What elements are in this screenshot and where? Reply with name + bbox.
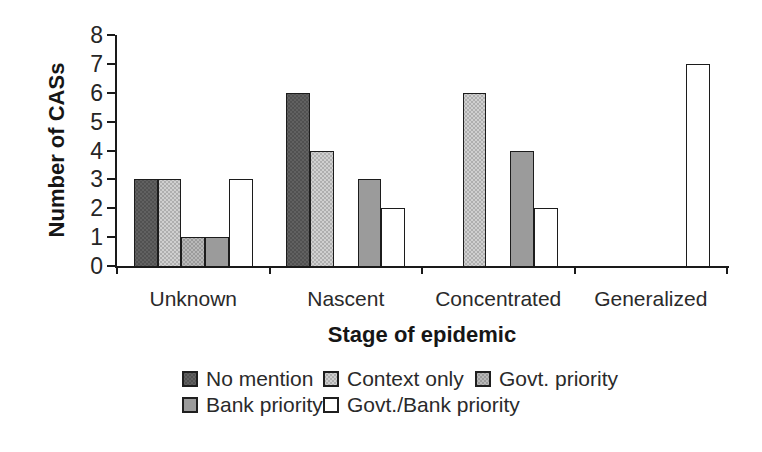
legend-label: Bank priority — [206, 393, 323, 417]
legend-swatch-icon — [323, 371, 339, 387]
bar-unknown-govt-priority — [181, 237, 205, 268]
legend-row: No mentionContext onlyGovt. priority — [182, 366, 618, 392]
x-category-label-concentrated: Concentrated — [422, 287, 575, 311]
bar-nascent-no-mention — [286, 93, 310, 268]
bar-generalized-govt-bank-priority — [686, 64, 710, 268]
bar-nascent-bank-priority — [358, 179, 382, 268]
y-tick-label: 8 — [69, 22, 103, 48]
legend: No mentionContext onlyGovt. priorityBank… — [182, 366, 618, 418]
y-tick-label: 3 — [69, 166, 103, 192]
y-axis-tick — [107, 121, 115, 123]
legend-item-govt-bank-priority: Govt./Bank priority — [323, 393, 520, 417]
y-axis-tick — [107, 265, 115, 267]
bar-nascent-context-only — [310, 151, 334, 269]
legend-swatch-icon — [475, 371, 491, 387]
y-axis-tick — [107, 34, 115, 36]
x-axis-tick — [269, 266, 271, 274]
x-axis-tick — [421, 266, 423, 274]
legend-item-no-mention: No mention — [182, 367, 323, 391]
bar-unknown-no-mention — [134, 179, 158, 268]
bar-concentrated-bank-priority — [510, 151, 534, 269]
legend-swatch-icon — [182, 397, 198, 413]
y-axis-title: Number of CASs — [44, 63, 70, 238]
y-axis-tick — [107, 236, 115, 238]
y-tick-label: 0 — [69, 253, 103, 279]
y-axis-tick — [107, 63, 115, 65]
y-tick-label: 4 — [69, 138, 103, 164]
y-tick-label: 1 — [69, 224, 103, 250]
y-axis-line — [115, 35, 117, 268]
x-axis-title: Stage of epidemic — [117, 322, 727, 348]
legend-swatch-icon — [182, 371, 198, 387]
x-category-label-nascent: Nascent — [270, 287, 423, 311]
x-axis-tick — [116, 266, 118, 274]
y-tick-label: 2 — [69, 195, 103, 221]
bar-concentrated-govt-bank-priority — [534, 208, 558, 268]
y-tick-label: 7 — [69, 51, 103, 77]
legend-label: Govt. priority — [499, 367, 618, 391]
legend-label: Context only — [347, 367, 464, 391]
y-axis-tick — [107, 92, 115, 94]
legend-item-bank-priority: Bank priority — [182, 393, 323, 417]
bar-unknown-govt-bank-priority — [229, 179, 253, 268]
legend-swatch-icon — [323, 397, 339, 413]
legend-label: No mention — [206, 367, 313, 391]
figure: Number of CASs Stage of epidemic No ment… — [0, 0, 762, 452]
legend-row: Bank priorityGovt./Bank priority — [182, 392, 618, 418]
x-axis-tick — [574, 266, 576, 274]
legend-item-govt-priority: Govt. priority — [475, 367, 618, 391]
y-axis-tick — [107, 150, 115, 152]
bar-unknown-bank-priority — [205, 237, 229, 268]
bar-nascent-govt-bank-priority — [381, 208, 405, 268]
bar-unknown-context-only — [158, 179, 182, 268]
x-category-label-generalized: Generalized — [575, 287, 728, 311]
y-tick-label: 5 — [69, 109, 103, 135]
y-axis-tick — [107, 178, 115, 180]
y-tick-label: 6 — [69, 80, 103, 106]
y-axis-tick — [107, 207, 115, 209]
legend-item-context-only: Context only — [323, 367, 475, 391]
legend-label: Govt./Bank priority — [347, 393, 520, 417]
x-axis-tick — [726, 266, 728, 274]
x-category-label-unknown: Unknown — [117, 287, 270, 311]
bar-concentrated-context-only — [463, 93, 487, 268]
